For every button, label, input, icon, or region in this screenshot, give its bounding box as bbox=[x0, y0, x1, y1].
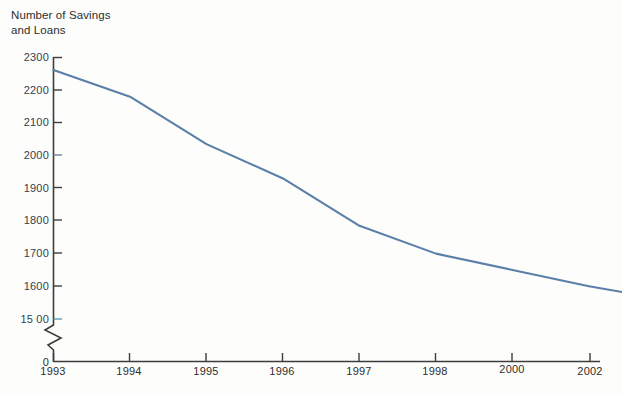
plot-area bbox=[0, 0, 622, 395]
data-series-line bbox=[54, 70, 622, 299]
x-axis-ticks bbox=[54, 353, 591, 362]
chart-figure: Number of Savingsand Loans 2300 2200 210… bbox=[0, 0, 622, 395]
y-axis-ticks bbox=[54, 58, 63, 320]
figure-caption-sliver bbox=[0, 386, 622, 395]
